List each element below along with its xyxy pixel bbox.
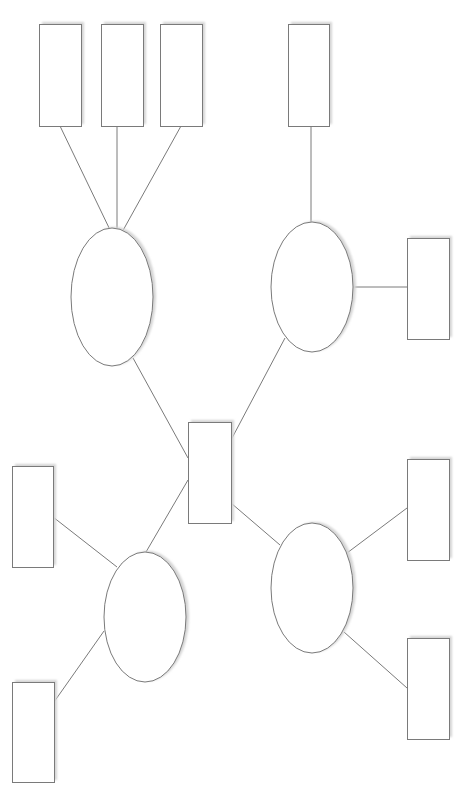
box-top-right-2: [408, 239, 450, 340]
line-bl2: [54, 631, 104, 702]
line-br-center: [231, 503, 280, 545]
ellipse-top-right: [271, 222, 353, 352]
line-br1: [347, 508, 407, 553]
box-bottom-right-1: [408, 460, 450, 561]
line-bl1: [53, 517, 117, 567]
line-tl1: [60, 126, 112, 234]
box-top-left-1: [40, 25, 82, 127]
diagram-shapes: [13, 25, 450, 783]
line-tr-center: [231, 338, 285, 440]
mind-map-diagram: [0, 0, 463, 791]
box-bottom-left-1: [13, 467, 54, 568]
line-bl-center: [146, 480, 188, 552]
ellipse-bottom-left: [104, 552, 186, 682]
center-box: [189, 423, 232, 524]
box-bottom-left-2: [13, 683, 55, 783]
ellipse-top-left: [71, 228, 153, 366]
shape-shadows: [15, 22, 452, 780]
box-bottom-right-2: [408, 639, 450, 740]
line-tl3: [121, 126, 181, 234]
line-tl-center: [133, 358, 188, 458]
box-top-left-2: [102, 25, 144, 127]
box-top-right-1: [289, 25, 330, 127]
ellipse-bottom-right: [271, 523, 353, 653]
box-top-left-3: [161, 25, 203, 127]
line-br2: [344, 632, 407, 688]
